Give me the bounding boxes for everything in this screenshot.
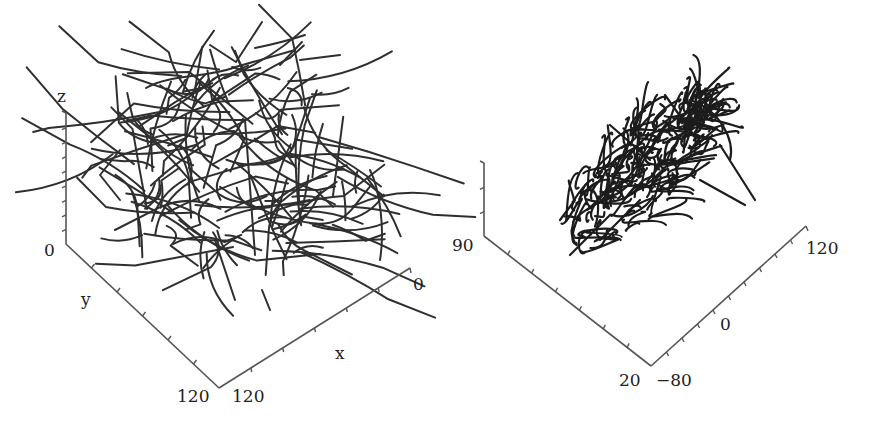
right-y-tick xyxy=(627,343,629,347)
left-x-tick xyxy=(378,288,379,292)
left-x-tick xyxy=(283,348,284,352)
left-y-tick xyxy=(92,264,95,268)
left-y-tick xyxy=(168,336,171,340)
right-x-tick xyxy=(667,352,669,356)
figure: z 0 y 120 120 x 0 90 20 −80 0 120 xyxy=(0,0,876,429)
right-x-tick xyxy=(713,310,715,314)
right-x-tick-label-min: −80 xyxy=(656,370,692,390)
left-y-tick xyxy=(194,360,197,364)
right-x-tick xyxy=(775,254,777,258)
left-x-tick xyxy=(410,268,411,273)
right-y-tick xyxy=(603,325,605,329)
right-x-tick xyxy=(682,338,684,342)
left-trajectory xyxy=(300,55,340,60)
right-x-tick-label-mid: 0 xyxy=(720,314,731,334)
left-y-tick-label-max: 120 xyxy=(177,386,209,406)
right-x-tick xyxy=(698,324,700,328)
right-y-tick xyxy=(532,269,534,273)
left-x-tick xyxy=(315,328,316,332)
right-x-tick xyxy=(760,268,762,272)
left-y-tick xyxy=(117,288,120,292)
left-z-tick-label: 0 xyxy=(44,240,55,260)
right-x-tick-label-max: 120 xyxy=(806,238,838,258)
right-trajectory xyxy=(720,145,755,200)
left-plot: z 0 y 120 120 x 0 xyxy=(16,5,475,406)
left-trajectory xyxy=(101,235,142,240)
left-trajectory xyxy=(288,88,302,106)
right-x-tick xyxy=(729,296,731,300)
left-trajectory xyxy=(204,119,243,188)
left-x-tick xyxy=(251,368,252,372)
right-x-tick xyxy=(791,240,793,244)
left-trajectory xyxy=(279,225,352,275)
left-y-tick xyxy=(143,312,146,316)
right-plot: 90 20 −80 0 120 xyxy=(452,55,838,390)
left-trajectory xyxy=(338,177,476,217)
right-trajectory xyxy=(700,180,745,205)
right-y-tick-label-max: 90 xyxy=(452,235,474,255)
left-x-label: x xyxy=(335,343,345,363)
left-trajectory xyxy=(262,290,270,310)
left-trajectory xyxy=(59,26,181,76)
right-y-tick xyxy=(579,306,581,310)
left-trajectory xyxy=(342,182,346,221)
left-x-tick xyxy=(346,308,347,312)
right-trajectories xyxy=(560,55,755,255)
left-trajectory xyxy=(333,225,385,241)
left-z-label: z xyxy=(57,86,66,106)
right-y-tick xyxy=(556,288,558,292)
right-x-tick xyxy=(806,226,808,231)
right-y-tick-label-min: 20 xyxy=(619,370,641,390)
right-z-tick xyxy=(480,161,484,163)
right-y-axis xyxy=(484,236,651,366)
left-x-tick-label-min: 0 xyxy=(413,274,424,294)
right-trajectory xyxy=(595,212,605,217)
right-y-tick xyxy=(508,251,510,255)
left-trajectory xyxy=(319,137,463,183)
right-x-tick xyxy=(744,282,746,286)
left-x-tick-label-max: 120 xyxy=(232,386,264,406)
left-y-label: y xyxy=(80,289,91,309)
